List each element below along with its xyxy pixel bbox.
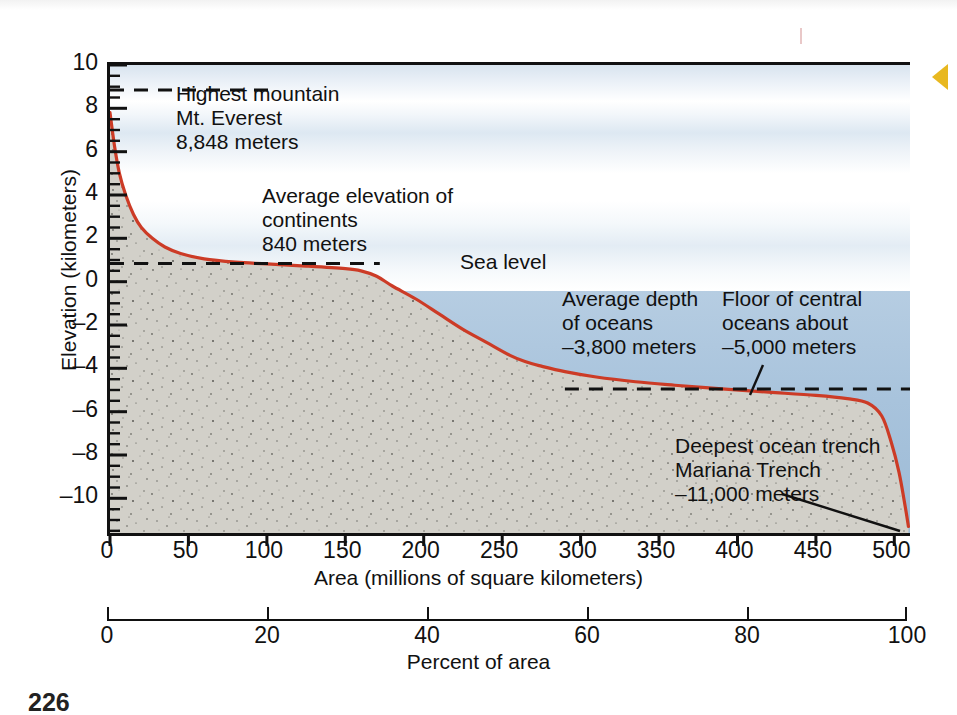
sea-level-annotation: Sea level [460, 250, 546, 274]
annotation-line: Deepest ocean trench [675, 434, 880, 458]
y-axis-title: Elevation (kilometers) [57, 120, 81, 420]
percent-axis-tick-label: 60 [574, 622, 600, 649]
percent-axis-tick-label: 20 [254, 622, 280, 649]
x-axis-tick-label: 350 [637, 537, 675, 564]
page-number: 226 [28, 688, 70, 715]
percent-axis-tick-mark [107, 607, 109, 621]
percent-axis-tick-labels: 020406080100 [107, 622, 907, 652]
y-axis-tick-label: –8 [72, 439, 98, 466]
annotation-line: Floor of central [722, 287, 862, 311]
y-axis-tick-marks [107, 62, 131, 536]
percent-axis-tick-label: 0 [101, 622, 114, 649]
percent-axis-tick-label: 100 [888, 622, 926, 649]
annotation-line: Mariana Trench [675, 458, 880, 482]
annotation-line: Highest mountain [176, 82, 339, 106]
percent-axis-tick-mark [587, 607, 589, 621]
annotation-line: oceans about [722, 311, 862, 335]
x-axis-tick-label: 50 [173, 537, 199, 564]
y-axis-tick-label: 4 [85, 179, 98, 206]
y-axis-tick-label: –10 [60, 482, 98, 509]
annotation-line: Mt. Everest [176, 106, 339, 130]
annotation-line: –5,000 meters [722, 335, 862, 359]
annotation-line: of oceans [562, 311, 698, 335]
x-axis-tick-label: 200 [402, 537, 440, 564]
mariana-trench-annotation: Deepest ocean trenchMariana Trench–11,00… [675, 434, 880, 506]
x-axis-tick-label: 150 [323, 537, 361, 564]
annotation-line: 8,848 meters [176, 130, 339, 154]
annotation-line: 840 meters [262, 232, 453, 256]
annotation-line: –3,800 meters [562, 335, 698, 359]
average-ocean-depth-annotation: Average depthof oceans–3,800 meters [562, 287, 698, 359]
x-axis-tick-label: 100 [245, 537, 283, 564]
x-axis-tick-label: 450 [794, 537, 832, 564]
everest-annotation: Highest mountainMt. Everest8,848 meters [176, 82, 339, 154]
percent-axis-tick-mark [905, 607, 907, 621]
percent-axis-tick-label: 80 [734, 622, 760, 649]
y-axis-tick-label: 10 [72, 49, 98, 76]
x-axis-tick-label: 300 [558, 537, 596, 564]
percent-axis-line [107, 619, 907, 621]
annotation-line: continents [262, 208, 453, 232]
percent-axis-tick-mark [427, 607, 429, 621]
percent-axis-tick-mark [747, 607, 749, 621]
y-axis-tick-label: 8 [85, 92, 98, 119]
gold-triangle-marker [932, 64, 948, 90]
percent-axis-tick-label: 40 [414, 622, 440, 649]
x-axis-title: Area (millions of square kilometers) [0, 566, 957, 590]
y-axis-tick-label: 6 [85, 135, 98, 162]
annotation-line: Sea level [460, 250, 546, 274]
percent-axis-title: Percent of area [0, 650, 957, 674]
percent-axis-tick-mark [267, 607, 269, 621]
central-ocean-floor-annotation: Floor of centraloceans about–5,000 meter… [722, 287, 862, 359]
annotation-line: Average depth [562, 287, 698, 311]
y-axis-tick-label: 0 [85, 265, 98, 292]
x-axis-tick-label: 400 [715, 537, 753, 564]
percent-axis [107, 607, 907, 621]
x-axis-tick-label: 0 [101, 537, 114, 564]
annotation-line: Average elevation of [262, 184, 453, 208]
scan-edge [0, 0, 957, 10]
y-axis-tick-label: 2 [85, 222, 98, 249]
x-axis-tick-label: 250 [480, 537, 518, 564]
scan-artifact [800, 28, 802, 44]
x-axis-tick-label: 500 [872, 537, 910, 564]
annotation-line: –11,000 meters [675, 482, 880, 506]
continents-annotation: Average elevation ofcontinents840 meters [262, 184, 453, 256]
x-axis-tick-labels: 050100150200250300350400450500 [107, 537, 907, 567]
